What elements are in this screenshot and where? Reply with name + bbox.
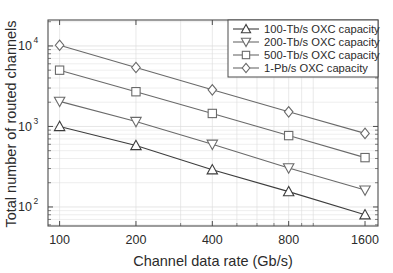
- data-point-square: [242, 51, 249, 58]
- data-point-square: [285, 131, 293, 139]
- legend-label: 1-Pb/s OXC capacity: [264, 62, 368, 74]
- x-tick-label: 800: [278, 233, 299, 247]
- data-point-square: [361, 153, 369, 161]
- data-point-square: [208, 109, 216, 117]
- svg-text:10: 10: [18, 120, 32, 134]
- svg-text:10: 10: [18, 39, 32, 53]
- svg-text:4: 4: [34, 35, 39, 45]
- x-axis-title: Channel data rate (Gb/s): [133, 253, 293, 269]
- svg-text:2: 2: [34, 196, 39, 206]
- legend-label: 100-Tb/s OXC capacity: [264, 23, 380, 35]
- legend-label: 200-Tb/s OXC capacity: [264, 36, 380, 48]
- svg-text:10: 10: [18, 200, 32, 214]
- legend-label: 500-Tb/s OXC capacity: [264, 49, 380, 61]
- chart-legend[interactable]: 100-Tb/s OXC capacity200-Tb/s OXC capaci…: [228, 20, 380, 77]
- x-tick-label: 400: [202, 233, 223, 247]
- data-point-square: [55, 66, 63, 74]
- chart-figure: 1002004008001600 102103104 Channel data …: [0, 0, 393, 273]
- x-tick-label: 200: [126, 233, 147, 247]
- x-tick-label: 100: [49, 233, 70, 247]
- x-tick-label: 1600: [351, 233, 379, 247]
- svg-text:3: 3: [34, 116, 39, 126]
- data-point-square: [132, 88, 140, 96]
- y-axis-title: Total number of routed channels: [3, 20, 19, 227]
